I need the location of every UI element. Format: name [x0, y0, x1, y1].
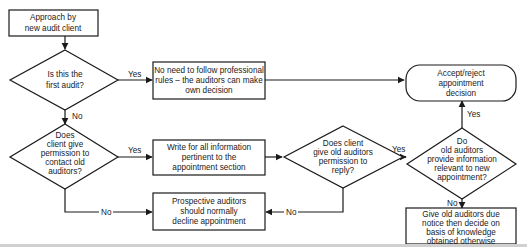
svg-text:basis of knowledge: basis of knowledge [426, 228, 496, 237]
svg-text:Does: Does [55, 131, 74, 140]
svg-text:auditors?: auditors? [48, 167, 82, 176]
flowchart-canvas: Yes No Yes No Yes No Yes No Approach by … [0, 0, 527, 247]
svg-text:Approach by: Approach by [30, 13, 77, 22]
terminal-accept-reject-decision: Accept/reject appointment decision [406, 65, 516, 101]
edge-label-contact-yes: Yes [128, 146, 141, 155]
svg-text:Do: Do [457, 137, 468, 146]
node-no-professional-rules: No need to follow professional rules – t… [153, 62, 265, 99]
svg-text:appointment: appointment [438, 79, 484, 88]
connector-reply-no [266, 188, 343, 212]
edge-label-provide-no: No [447, 199, 458, 208]
svg-text:provide information: provide information [427, 155, 497, 164]
svg-text:Does client: Does client [323, 139, 364, 148]
svg-text:contact old: contact old [45, 158, 85, 167]
svg-text:give old auditors: give old auditors [313, 148, 373, 157]
edge-label-first-yes: Yes [128, 70, 141, 79]
svg-text:Give old auditors due: Give old auditors due [422, 210, 500, 219]
svg-text:appointment?: appointment? [437, 173, 487, 182]
svg-text:Prospective auditors: Prospective auditors [172, 197, 246, 206]
decision-permission-to-reply: Does client give old auditors permission… [284, 126, 403, 188]
svg-text:permission to: permission to [319, 157, 368, 166]
decision-provide-information: Do old auditors provide information rele… [407, 128, 516, 199]
svg-text:relevant to new: relevant to new [434, 164, 490, 173]
svg-text:reply?: reply? [332, 166, 355, 175]
node-approach-by-new-client: Approach by new audit client [9, 10, 98, 36]
svg-text:new audit client: new audit client [25, 24, 82, 33]
svg-text:notice then decide on: notice then decide on [422, 219, 500, 228]
decision-first-audit: Is this the first audit? [10, 50, 118, 110]
svg-text:Is this the: Is this the [47, 70, 82, 79]
svg-text:pertinent to the: pertinent to the [182, 153, 237, 162]
node-give-old-auditors-notice: Give old auditors due notice then decide… [406, 208, 516, 246]
edge-label-contact-no: No [101, 208, 112, 217]
svg-text:client give: client give [47, 140, 84, 149]
edge-label-reply-no: No [286, 208, 297, 217]
svg-text:appointment section: appointment section [172, 163, 246, 172]
node-write-for-information: Write for all information pertinent to t… [153, 140, 265, 175]
svg-text:rules – the auditors can make: rules – the auditors can make [155, 76, 263, 85]
svg-text:permission to: permission to [41, 149, 90, 158]
svg-text:own decision: own decision [185, 86, 233, 95]
edge-label-first-no: No [72, 112, 83, 121]
decision-permission-to-contact: Does client give permission to contact o… [10, 124, 118, 189]
svg-text:Accept/reject: Accept/reject [437, 69, 485, 78]
svg-text:No need to follow professional: No need to follow professional [154, 66, 264, 75]
svg-text:old auditors: old auditors [441, 146, 483, 155]
edge-label-provide-yes: Yes [467, 110, 480, 119]
svg-text:decline appointment: decline appointment [172, 217, 246, 226]
svg-text:Write for all information: Write for all information [167, 143, 251, 152]
node-decline-appointment: Prospective auditors should normally dec… [153, 193, 265, 230]
svg-text:should normally: should normally [180, 207, 238, 216]
svg-text:first audit?: first audit? [46, 81, 84, 90]
svg-text:decision: decision [446, 89, 476, 98]
